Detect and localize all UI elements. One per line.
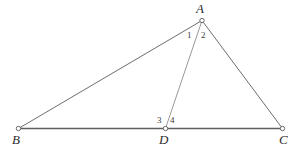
vertex-marker-b bbox=[16, 126, 20, 130]
segments-group bbox=[19, 21, 283, 129]
vertex-label-c: C bbox=[279, 133, 288, 146]
geometry-figure: A B C D 1 2 3 4 bbox=[0, 0, 301, 151]
vertex-markers-group bbox=[16, 18, 284, 130]
segment-ab bbox=[19, 21, 203, 129]
vertex-label-b: B bbox=[12, 133, 20, 146]
vertex-marker-a bbox=[200, 18, 204, 22]
angle-label-2: 2 bbox=[201, 31, 206, 40]
angle-label-1: 1 bbox=[187, 31, 192, 40]
angle-label-4: 4 bbox=[170, 116, 175, 125]
vertex-label-a: A bbox=[196, 2, 204, 15]
angle-label-3: 3 bbox=[157, 116, 162, 125]
segment-ac bbox=[202, 21, 283, 129]
segment-ad bbox=[166, 21, 203, 129]
vertex-marker-c bbox=[280, 126, 284, 130]
vertex-marker-d bbox=[163, 126, 167, 130]
vertex-label-d: D bbox=[159, 133, 168, 146]
diagram-canvas bbox=[0, 0, 301, 151]
